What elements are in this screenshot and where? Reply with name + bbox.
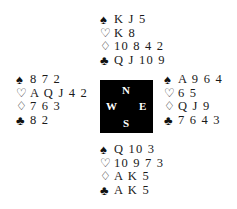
- club-icon: ♣: [16, 114, 30, 128]
- east-spades-cards: A 9 6 4: [178, 73, 223, 87]
- west-hearts-row: ♡ A Q J 4 2: [16, 87, 88, 101]
- spade-icon: ♠: [100, 13, 114, 27]
- club-icon: ♣: [100, 54, 114, 68]
- south-diamonds-row: ♢ A K 5: [100, 170, 164, 184]
- compass-east-label: E: [139, 101, 146, 112]
- east-hearts-cards: 6 5: [178, 87, 197, 101]
- spade-icon: ♠: [100, 143, 114, 157]
- heart-icon: ♡: [100, 27, 114, 41]
- heart-icon: ♡: [16, 87, 30, 101]
- heart-icon: ♡: [164, 87, 178, 101]
- east-diamonds-cards: Q J 9: [178, 100, 210, 114]
- north-spades-row: ♠ K J 5: [100, 13, 166, 27]
- east-hand: ♠ A 9 6 4 ♡ 6 5 ♢ Q J 9 ♣ 7 6 4 3: [164, 73, 223, 127]
- club-icon: ♣: [100, 184, 114, 198]
- compass-west-label: W: [106, 101, 117, 112]
- west-hearts-cards: A Q J 4 2: [30, 87, 88, 101]
- south-spades-row: ♠ Q 10 3: [100, 143, 164, 157]
- diamond-icon: ♢: [100, 40, 114, 54]
- east-hearts-row: ♡ 6 5: [164, 87, 223, 101]
- diamond-icon: ♢: [164, 100, 178, 114]
- south-hearts-cards: 10 9 7 3: [114, 157, 164, 171]
- west-spades-cards: 8 7 2: [30, 73, 61, 87]
- south-hand: ♠ Q 10 3 ♡ 10 9 7 3 ♢ A K 5 ♣ A K 5: [100, 143, 164, 197]
- north-clubs-row: ♣ Q J 10 9: [100, 54, 166, 68]
- north-hearts-cards: K 8: [114, 27, 136, 41]
- west-diamonds-row: ♢ 7 6 3: [16, 100, 88, 114]
- club-icon: ♣: [164, 114, 178, 128]
- south-spades-cards: Q 10 3: [114, 143, 155, 157]
- north-spades-cards: K J 5: [114, 13, 146, 27]
- west-diamonds-cards: 7 6 3: [30, 100, 61, 114]
- compass-north-label: N: [122, 85, 130, 96]
- heart-icon: ♡: [100, 157, 114, 171]
- west-hand: ♠ 8 7 2 ♡ A Q J 4 2 ♢ 7 6 3 ♣ 8 2: [16, 73, 88, 127]
- south-diamonds-cards: A K 5: [114, 170, 150, 184]
- spade-icon: ♠: [16, 73, 30, 87]
- spade-icon: ♠: [164, 73, 178, 87]
- diamond-icon: ♢: [100, 170, 114, 184]
- south-clubs-cards: A K 5: [114, 184, 150, 198]
- east-clubs-cards: 7 6 4 3: [178, 114, 221, 128]
- compass-south-label: S: [123, 118, 129, 129]
- south-clubs-row: ♣ A K 5: [100, 184, 164, 198]
- north-hearts-row: ♡ K 8: [100, 27, 166, 41]
- north-diamonds-cards: 10 8 4 2: [114, 40, 164, 54]
- diamond-icon: ♢: [16, 100, 30, 114]
- east-diamonds-row: ♢ Q J 9: [164, 100, 223, 114]
- west-spades-row: ♠ 8 7 2: [16, 73, 88, 87]
- west-clubs-row: ♣ 8 2: [16, 114, 88, 128]
- north-clubs-cards: Q J 10 9: [114, 54, 166, 68]
- south-hearts-row: ♡ 10 9 7 3: [100, 157, 164, 171]
- west-clubs-cards: 8 2: [30, 114, 49, 128]
- north-diamonds-row: ♢ 10 8 4 2: [100, 40, 166, 54]
- east-clubs-row: ♣ 7 6 4 3: [164, 114, 223, 128]
- compass-table: N W E S: [100, 80, 153, 133]
- east-spades-row: ♠ A 9 6 4: [164, 73, 223, 87]
- north-hand: ♠ K J 5 ♡ K 8 ♢ 10 8 4 2 ♣ Q J 10 9: [100, 13, 166, 67]
